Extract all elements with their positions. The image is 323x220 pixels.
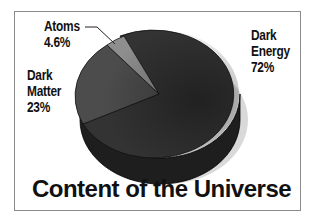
- label-dark-energy-name2: Energy: [251, 43, 290, 59]
- label-atoms: Atoms 4.6%: [44, 18, 80, 50]
- label-dark-energy-name1: Dark: [251, 27, 290, 43]
- label-atoms-name: Atoms: [44, 18, 80, 34]
- label-dark-energy-value: 72%: [251, 59, 290, 75]
- atoms-leader-line: [85, 27, 115, 44]
- label-atoms-value: 4.6%: [44, 34, 80, 50]
- label-dark-matter-name2: Matter: [27, 83, 61, 99]
- label-dark-matter-name1: Dark: [27, 67, 61, 83]
- label-dark-matter-value: 23%: [27, 99, 61, 115]
- label-dark-energy: Dark Energy 72%: [251, 27, 290, 75]
- chart-title: Content of the Universe: [0, 175, 323, 203]
- label-dark-matter: Dark Matter 23%: [27, 67, 61, 115]
